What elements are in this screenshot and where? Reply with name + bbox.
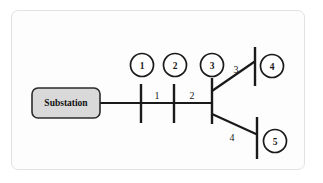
single-line-diagram: Substation 1 2 3 4 5 1 2 3 4 xyxy=(0,0,323,183)
segment-label-3: 3 xyxy=(234,64,239,75)
node-label-4: 4 xyxy=(270,62,275,72)
diagram-canvas: Substation 1 2 3 4 5 1 2 3 4 xyxy=(0,0,323,183)
node-label-5: 5 xyxy=(273,137,278,147)
node-label-1: 1 xyxy=(140,61,145,71)
substation-label: Substation xyxy=(44,98,88,108)
segment-label-1: 1 xyxy=(155,90,160,101)
node-label-2: 2 xyxy=(173,61,178,71)
branch-line-lower xyxy=(212,114,256,134)
segment-label-2: 2 xyxy=(190,90,195,101)
node-label-3: 3 xyxy=(210,61,215,71)
segment-label-4: 4 xyxy=(230,132,235,143)
